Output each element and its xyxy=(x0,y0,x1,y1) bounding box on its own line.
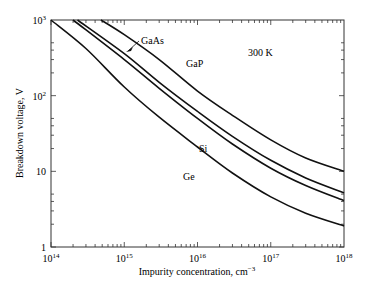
x-tick-label: 1014 xyxy=(43,252,61,264)
temperature-annotation: 300 K xyxy=(248,47,274,58)
y-tick-label: 102 xyxy=(33,90,47,102)
x-tick-label: 1015 xyxy=(116,252,134,264)
y-tick-label: 1 xyxy=(41,242,46,253)
breakdown-voltage-chart: 10141015101610171018110102103 GaPGaAsSiG… xyxy=(0,0,368,292)
x-tick-label: 1018 xyxy=(336,252,354,264)
y-tick-label: 103 xyxy=(33,14,47,26)
label-gaas: GaAs xyxy=(141,35,164,46)
plot-border xyxy=(51,20,344,247)
y-axis-label: Breakdown voltage, V xyxy=(14,87,25,178)
label-gap: GaP xyxy=(186,58,204,69)
x-axis-label: Impurity concentration, cm−3 xyxy=(139,265,256,277)
y-tick-label: 10 xyxy=(36,166,46,177)
x-tick-label: 1016 xyxy=(189,252,207,264)
x-tick-label: 1017 xyxy=(262,252,280,264)
curve-gaas xyxy=(78,20,345,193)
curve-ge xyxy=(51,20,344,226)
series-labels: GaPGaAsSiGe xyxy=(126,35,208,182)
series-curves xyxy=(51,20,344,226)
curve-si xyxy=(73,20,344,201)
axis-ticks: 10141015101610171018110102103 xyxy=(33,14,354,264)
plot-frame xyxy=(51,20,344,247)
label-ge: Ge xyxy=(183,171,195,182)
label-si: Si xyxy=(199,143,208,154)
